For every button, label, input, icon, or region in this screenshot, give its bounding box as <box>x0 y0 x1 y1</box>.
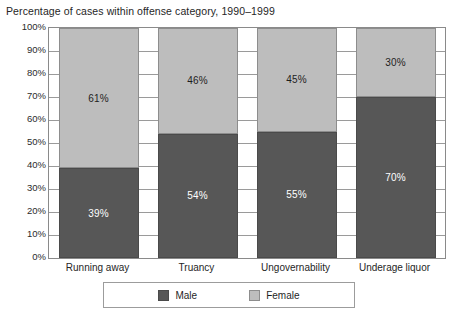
legend-label-female: Female <box>266 290 299 301</box>
bar-group[interactable]: 55%45% <box>257 28 337 258</box>
bar-value-label: 61% <box>88 93 109 104</box>
y-axis-tick-label: 20% <box>2 206 46 216</box>
chart-figure: Percentage of cases within offense categ… <box>0 0 460 320</box>
bar-segment-male[interactable]: 54% <box>158 134 238 258</box>
bar-segment-male[interactable]: 39% <box>59 168 139 258</box>
bar-segment-female[interactable]: 30% <box>356 28 436 97</box>
y-axis-tick-label: 10% <box>2 229 46 239</box>
female-swatch-icon <box>249 290 260 301</box>
y-axis-tick-label: 90% <box>2 45 46 55</box>
y-axis-tick-label: 0% <box>2 252 46 262</box>
bar-value-label: 45% <box>286 74 307 85</box>
chart-legend: Male Female <box>103 282 355 308</box>
bar-segment-male[interactable]: 55% <box>257 132 337 259</box>
male-swatch-icon <box>158 290 169 301</box>
y-axis: 0%10%20%30%40%50%60%70%80%90%100% <box>0 27 46 259</box>
legend-label-male: Male <box>175 290 197 301</box>
bar-value-label: 70% <box>385 172 406 183</box>
y-axis-tick-label: 80% <box>2 68 46 78</box>
x-axis: Running awayTruancyUngovernabilityUndera… <box>48 261 446 277</box>
bar-segment-female[interactable]: 46% <box>158 28 238 134</box>
bar-value-label: 55% <box>286 189 307 200</box>
y-axis-tick-label: 50% <box>2 137 46 147</box>
y-axis-tick-label: 40% <box>2 160 46 170</box>
bar-value-label: 39% <box>88 208 109 219</box>
bar-value-label: 46% <box>187 75 208 86</box>
chart-title: Percentage of cases within offense categ… <box>6 5 275 18</box>
y-axis-tick-label: 60% <box>2 114 46 124</box>
bar-group[interactable]: 70%30% <box>356 28 436 258</box>
bar-segment-female[interactable]: 45% <box>257 28 337 132</box>
legend-entry-male[interactable]: Male <box>158 290 197 301</box>
y-axis-tick-label: 30% <box>2 183 46 193</box>
plot-area: 39%61%54%46%55%45%70%30% <box>48 27 446 259</box>
bar-group[interactable]: 54%46% <box>158 28 238 258</box>
y-axis-tick-label: 70% <box>2 91 46 101</box>
bar-segment-male[interactable]: 70% <box>356 97 436 258</box>
bar-group[interactable]: 39%61% <box>59 28 139 258</box>
x-axis-category-label: Truancy <box>147 261 246 274</box>
bar-segment-female[interactable]: 61% <box>59 28 139 168</box>
x-axis-category-label: Underage liquor <box>345 261 444 274</box>
legend-entry-female[interactable]: Female <box>249 290 299 301</box>
x-axis-category-label: Running away <box>48 261 147 274</box>
x-axis-category-label: Ungovernability <box>246 261 345 274</box>
bar-value-label: 54% <box>187 190 208 201</box>
bar-value-label: 30% <box>385 57 406 68</box>
y-axis-tick-label: 100% <box>2 22 46 32</box>
